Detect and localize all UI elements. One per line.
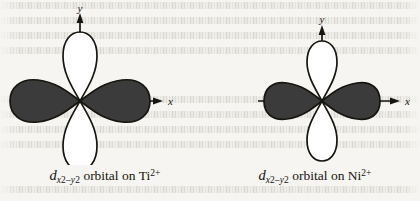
axis-y-label-ni: y [319,13,325,25]
figure-page: y x dx2–y2 orbital on Ti2+ [0,0,420,201]
orbital-drawing-ni: y x [210,0,420,165]
caption-symbol-ti: d [50,167,57,183]
axis-x-label-ni: x [404,95,410,107]
lobe-minus-x-filled-ni [264,83,322,120]
lobe-plus-x-filled-ni [322,83,380,120]
caption-symbol-ni: d [258,167,265,183]
lobe-plus-x-filled-ti [80,80,150,123]
caption-subscript-ti: x2–y2 [57,175,80,185]
lobe-minus-x-filled-ti [10,80,80,123]
caption-subscript-ni: x2–y2 [266,175,289,185]
caption-middle-ti: orbital on [80,168,139,183]
axis-y-label-ti: y [77,2,83,14]
caption-ni: dx2–y2 orbital on Ni2+ [210,168,420,185]
caption-charge-ti: 2+ [150,168,160,178]
orbital-diagram-ti: y x dx2–y2 orbital on Ti2+ [0,0,210,201]
orbital-drawing-ti: y x [0,0,210,165]
caption-ti: dx2–y2 orbital on Ti2+ [0,168,210,185]
orbital-diagram-ni: y x dx2–y2 orbital on Ni2+ [210,0,420,201]
caption-element-ti: Ti [139,168,151,183]
lobe-plus-y-empty-ni [307,41,337,101]
lobe-minus-y-empty-ni [307,101,337,161]
caption-element-ni: Ni [348,168,362,183]
lobe-plus-y-empty-ti [63,32,97,101]
axis-x-label-ti: x [167,95,173,107]
caption-charge-ni: 2+ [361,168,371,178]
caption-middle-ni: orbital on [289,168,348,183]
